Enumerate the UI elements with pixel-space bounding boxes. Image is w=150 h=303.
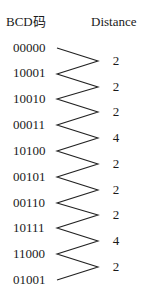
distance-value: 2 bbox=[111, 105, 121, 119]
distance-value: 4 bbox=[111, 234, 121, 248]
zigzag-connector bbox=[0, 0, 150, 303]
distance-value: 4 bbox=[111, 131, 121, 145]
distance-value: 2 bbox=[111, 260, 121, 274]
distance-value: 2 bbox=[111, 183, 121, 197]
distance-value: 2 bbox=[111, 80, 121, 94]
distance-value: 2 bbox=[111, 54, 121, 68]
distance-value: 2 bbox=[111, 157, 121, 171]
distance-value: 2 bbox=[111, 208, 121, 222]
